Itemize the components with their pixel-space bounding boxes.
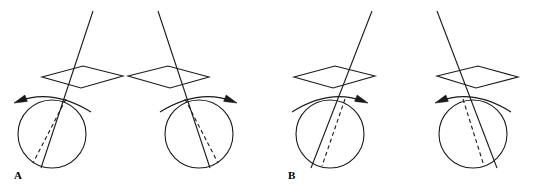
sphere-circle — [296, 100, 364, 168]
reference-axis-dashed-line — [33, 99, 66, 163]
equatorial-plane-parallelogram — [128, 66, 209, 88]
equatorial-plane-parallelogram — [437, 66, 518, 88]
panel-label-b: B — [288, 170, 295, 181]
subfigure-A1 — [14, 11, 123, 168]
diagram-canvas — [0, 0, 535, 192]
subfigure-B2 — [435, 11, 518, 168]
rotation-direction-arrowhead — [224, 95, 237, 103]
subfigure-B1 — [292, 11, 375, 168]
sphere-circle — [439, 100, 507, 168]
rotation-direction-arrowhead — [14, 95, 27, 103]
figure-root: A B — [0, 0, 535, 192]
rotation-direction-arrowhead — [355, 95, 368, 103]
reference-axis-dashed-line — [463, 99, 484, 166]
reference-axis-dashed-line — [185, 99, 218, 163]
panel-label-a: A — [14, 170, 22, 181]
equatorial-plane-parallelogram — [42, 66, 123, 88]
rotation-axis-solid-line — [158, 11, 210, 168]
rotation-axis-solid-line — [437, 11, 497, 168]
equatorial-plane-parallelogram — [294, 66, 375, 88]
rotation-axis-solid-line — [41, 11, 93, 168]
subfigure-A2 — [128, 11, 237, 168]
rotation-direction-arrowhead — [435, 95, 448, 103]
